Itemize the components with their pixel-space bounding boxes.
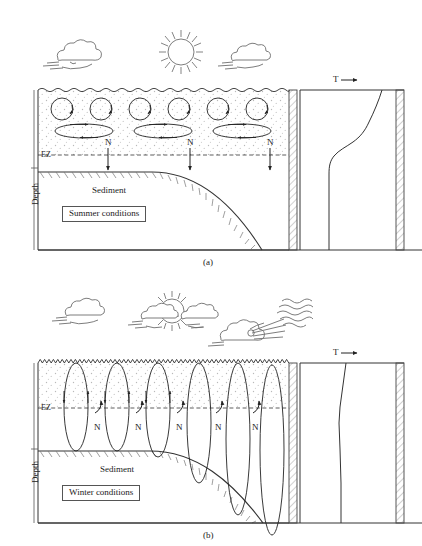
winter-conditions-box: Winter conditions (62, 485, 140, 501)
sun-behind-cloud-icon (128, 291, 218, 331)
nutrient-label: N (267, 138, 274, 147)
depth-axis-label: Depth (31, 461, 40, 483)
nutrient-label: N (176, 423, 183, 432)
summer-temperature-curve (329, 90, 382, 250)
sediment-label: Sediment (100, 465, 134, 474)
wind-blowing-face-icon (208, 299, 313, 346)
nutrient-label: N (187, 138, 194, 147)
sediment-label: Sediment (92, 186, 126, 195)
euphotic-zone-label: EZ (41, 151, 51, 159)
summer-conditions-box: Summer conditions (62, 206, 146, 222)
temperature-profile-frame (300, 90, 404, 250)
profile-right-wall (396, 90, 404, 250)
nutrient-label: N (105, 138, 112, 147)
panel-caption-b: (b) (203, 531, 214, 540)
cloud-icon (52, 298, 105, 324)
nutrient-label: N (135, 423, 142, 432)
temperature-profile-frame (300, 363, 404, 523)
euphotic-zone-shading (38, 363, 289, 408)
temperature-axis-label: T (333, 75, 339, 84)
dam-wall (289, 90, 297, 250)
panel-winter: Depth EZ N N N N N Sediment Winter condi… (0, 273, 422, 546)
nutrient-label: N (215, 423, 222, 432)
nutrient-label: N (252, 423, 259, 432)
dam-wall (289, 363, 297, 523)
summer-diagram (0, 0, 422, 273)
figure-root: Depth EZ N N N Sediment Summer condition… (0, 0, 422, 546)
nutrient-label: N (94, 423, 101, 432)
euphotic-zone-label: EZ (41, 404, 51, 412)
profile-right-wall (396, 363, 404, 523)
temperature-axis-label: T (333, 348, 339, 357)
panel-summer: Depth EZ N N N Sediment Summer condition… (0, 0, 422, 273)
panel-caption-a: (a) (203, 258, 213, 267)
winter-temperature-curve (339, 363, 346, 523)
cloud-icon (43, 40, 101, 69)
water-surface-winter (38, 359, 289, 363)
sun-icon (159, 30, 203, 74)
winter-diagram (0, 273, 422, 546)
depth-axis-label: Depth (31, 183, 40, 205)
cloud-icon (218, 43, 271, 69)
